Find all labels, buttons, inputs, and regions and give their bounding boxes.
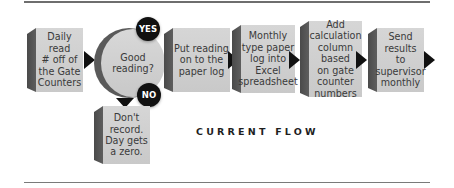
no-branch-label: Don't record. Day gets a zero.	[103, 106, 150, 164]
step-send-results-box: Send results to supervisor monthly	[368, 28, 424, 92]
bottom-divider	[24, 182, 430, 183]
step-daily-read-label: Daily read # off of the Gate Counters	[36, 28, 83, 92]
box-side-shade	[94, 106, 103, 164]
yes-badge: YES	[136, 17, 160, 41]
step-excel-label: Monthly type paper log into Excel spread…	[241, 25, 295, 93]
step-send-results-label: Send results to supervisor monthly	[377, 28, 424, 92]
arrow-right-icon	[356, 51, 367, 69]
step-calculation-label: Add calculation column based on gate cou…	[309, 21, 362, 97]
step-paper-log-box: Put reading on to the paper log	[164, 28, 230, 92]
diagram-title: CURRENT FLOW	[196, 126, 319, 137]
step-daily-read-box: Daily read # off of the Gate Counters	[27, 28, 83, 92]
box-side-shade	[300, 21, 309, 97]
arrow-right-icon	[424, 51, 435, 69]
box-side-shade	[164, 28, 173, 92]
step-excel-box: Monthly type paper log into Excel spread…	[232, 25, 295, 93]
step-calculation-box: Add calculation column based on gate cou…	[300, 21, 362, 97]
step-paper-log-label: Put reading on to the paper log	[173, 28, 230, 92]
no-badge: NO	[137, 83, 161, 107]
no-branch-box: Don't record. Day gets a zero.	[94, 106, 150, 164]
top-divider	[24, 1, 430, 3]
arrow-right-icon	[289, 51, 300, 69]
box-side-shade	[27, 28, 36, 92]
